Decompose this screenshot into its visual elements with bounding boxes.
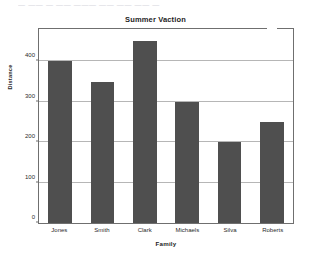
bar-slot — [124, 29, 166, 223]
y-tick-label: 300 — [25, 93, 35, 99]
y-tick-label: 200 — [25, 133, 35, 139]
x-tick-label: Smith — [81, 227, 124, 233]
bars-layer — [39, 29, 293, 223]
bar-silva — [218, 142, 242, 223]
bar-chart-figure: Summer Vaction Distance 0100200300400 Jo… — [0, 0, 311, 269]
bar-michaels — [175, 102, 199, 223]
x-axis-ticks: JonesSmithClarkMichaelsSilvaRoberts — [38, 227, 294, 233]
bar-smith — [91, 82, 115, 223]
x-axis-label: Family — [38, 240, 294, 247]
x-tick-label: Jones — [38, 227, 81, 233]
x-tick-label: Clark — [123, 227, 166, 233]
y-tick-label: 400 — [25, 52, 35, 58]
bar-slot — [81, 29, 123, 223]
x-tick-label: Michaels — [166, 227, 209, 233]
bar-slot — [39, 29, 81, 223]
chart-title: Summer Vaction — [0, 15, 311, 24]
bar-jones — [48, 61, 72, 223]
y-tick-label: 100 — [25, 174, 35, 180]
plot-area: 0100200300400 — [38, 28, 294, 224]
bar-clark — [133, 41, 157, 223]
y-tick-label: 0 — [32, 214, 35, 220]
bar-slot — [208, 29, 250, 223]
x-tick-label: Roberts — [251, 227, 294, 233]
bar-slot — [251, 29, 293, 223]
y-axis-label: Distance — [7, 47, 13, 107]
x-tick-label: Silva — [209, 227, 252, 233]
bar-roberts — [260, 122, 284, 223]
bar-slot — [166, 29, 208, 223]
